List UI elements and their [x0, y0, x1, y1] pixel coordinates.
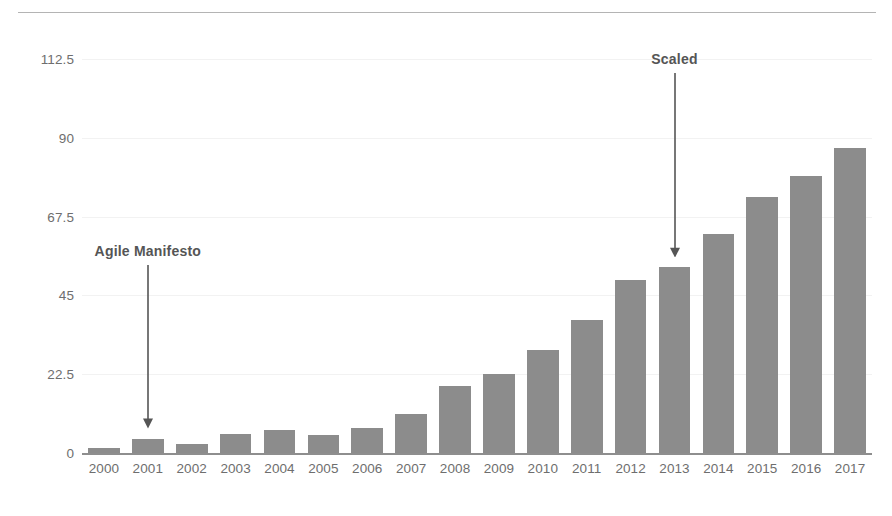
- x-axis-tick-label: 2013: [659, 461, 689, 476]
- x-axis-tick-label: 2011: [572, 461, 601, 476]
- x-axis-tick-label: 2017: [835, 461, 865, 476]
- y-axis-tick-label: 67.5: [47, 209, 74, 224]
- x-axis-tick-label: 2008: [440, 461, 470, 476]
- x-axis-tick-label: 2002: [177, 461, 207, 476]
- bar[interactable]: [176, 444, 208, 453]
- x-axis-tick-label: 2005: [308, 461, 338, 476]
- bar[interactable]: [395, 414, 427, 453]
- bar[interactable]: [483, 374, 515, 453]
- x-axis-tick-label: 2001: [133, 461, 163, 476]
- annotation-label: Agile Manifesto: [95, 243, 201, 259]
- x-axis-tick-label: 2000: [89, 461, 119, 476]
- x-axis-tick-label: 2012: [615, 461, 645, 476]
- chart-figure: 022.54567.590112.5 200020012002200320042…: [0, 0, 892, 516]
- x-axis-tick-label: 2009: [484, 461, 514, 476]
- bar[interactable]: [834, 148, 866, 453]
- x-axis-tick-label: 2007: [396, 461, 426, 476]
- y-axis-tick-label: 45: [59, 288, 74, 303]
- bar[interactable]: [132, 439, 164, 453]
- bar[interactable]: [571, 320, 603, 453]
- x-axis-tick-label: 2006: [352, 461, 382, 476]
- x-axis-tick-label: 2015: [747, 461, 777, 476]
- bar[interactable]: [264, 430, 296, 453]
- x-axis-tick-label: 2003: [220, 461, 250, 476]
- bar[interactable]: [220, 434, 252, 453]
- bar[interactable]: [746, 197, 778, 453]
- bar[interactable]: [88, 448, 120, 453]
- x-axis-tick-label: 2016: [791, 461, 821, 476]
- x-axis-tick-label: 2010: [528, 461, 558, 476]
- bar[interactable]: [439, 386, 471, 453]
- bar[interactable]: [790, 176, 822, 453]
- y-axis-tick-labels: 022.54567.590112.5: [0, 0, 74, 516]
- x-axis-tick-label: 2004: [264, 461, 294, 476]
- bar[interactable]: [659, 267, 691, 453]
- annotation-label: Scaled: [651, 51, 697, 67]
- x-axis-tick-label: 2014: [703, 461, 733, 476]
- bar[interactable]: [527, 350, 559, 453]
- bar[interactable]: [615, 280, 647, 453]
- bar[interactable]: [703, 234, 735, 453]
- y-axis-tick-label: 0: [66, 446, 74, 461]
- bar[interactable]: [351, 428, 383, 453]
- y-axis-tick-label: 90: [59, 130, 74, 145]
- y-axis-tick-label: 112.5: [41, 52, 74, 67]
- y-axis-tick-label: 22.5: [47, 367, 74, 382]
- bar[interactable]: [308, 435, 340, 453]
